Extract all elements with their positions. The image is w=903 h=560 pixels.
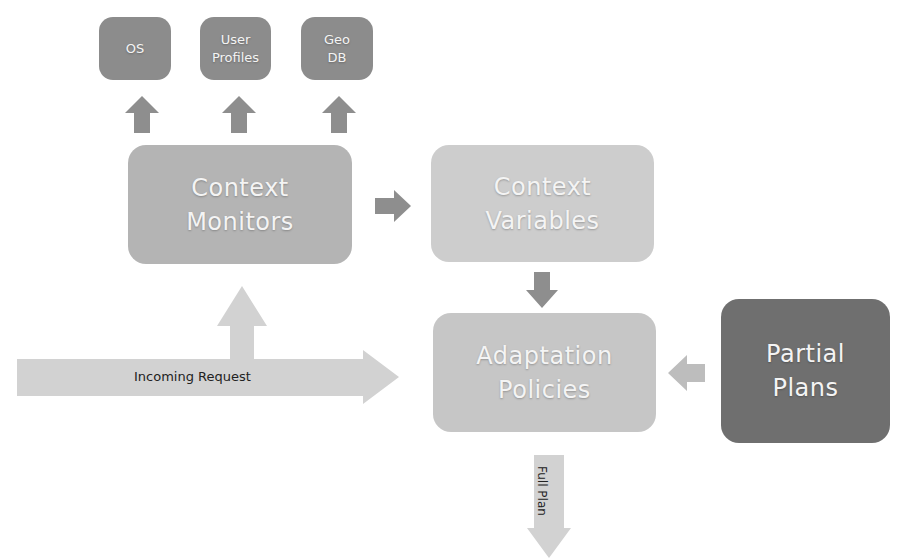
geo-db-box: Geo DB xyxy=(301,17,373,80)
user-profiles-box: User Profiles xyxy=(200,17,271,80)
geo-db-label: Geo DB xyxy=(324,31,350,67)
context-monitors-label: Context Monitors xyxy=(186,171,294,239)
partial-plans-label: Partial Plans xyxy=(766,337,845,405)
arrow-left-to-policies-icon xyxy=(668,355,705,391)
user-profiles-label: User Profiles xyxy=(212,31,259,67)
os-box: OS xyxy=(99,17,171,80)
arrow-down-to-policies-icon xyxy=(526,272,558,308)
arrow-up-to-user-profiles-icon xyxy=(222,96,256,133)
arrow-right-to-variables-icon xyxy=(375,190,411,222)
context-variables-box: Context Variables xyxy=(431,145,654,262)
partial-plans-box: Partial Plans xyxy=(721,299,890,443)
incoming-request-label: Incoming Request xyxy=(134,369,251,384)
arrow-up-to-monitors-icon xyxy=(217,286,267,360)
full-plan-label: Full Plan xyxy=(535,466,549,516)
os-label: OS xyxy=(126,40,144,58)
adaptation-policies-label: Adaptation Policies xyxy=(476,339,612,407)
adaptation-policies-box: Adaptation Policies xyxy=(433,313,656,432)
full-plan-arrow-icon xyxy=(527,455,571,558)
arrow-up-to-os-icon xyxy=(125,96,159,133)
context-variables-label: Context Variables xyxy=(485,170,599,238)
context-monitors-box: Context Monitors xyxy=(128,145,352,264)
arrow-up-to-geo-db-icon xyxy=(322,96,356,133)
